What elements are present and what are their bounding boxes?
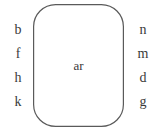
left-letter-column: b f h k [3, 0, 33, 131]
right-letter-0: n [128, 18, 158, 42]
rounded-rectangle-outline [34, 5, 124, 127]
left-letter-0: b [3, 18, 33, 42]
rounded-rectangle-shape [33, 4, 124, 127]
left-letter-1: f [3, 42, 33, 66]
right-letter-2: d [128, 66, 158, 90]
right-letter-column: n m d g [128, 0, 158, 131]
left-letter-3: k [3, 90, 33, 114]
left-letter-2: h [3, 66, 33, 90]
diagram-canvas: b f h k ar n m d g [0, 0, 161, 131]
right-letter-1: m [128, 42, 158, 66]
right-letter-3: g [128, 90, 158, 114]
